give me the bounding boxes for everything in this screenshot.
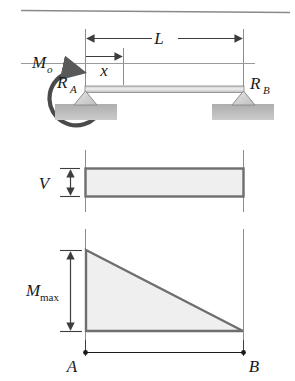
point-b-label: B xyxy=(249,357,260,376)
applied-moment-symbol: M xyxy=(31,53,47,72)
moment-max-subscript: max xyxy=(40,291,59,303)
ground-block-left xyxy=(55,104,117,120)
ground-block-right xyxy=(212,104,274,120)
shear-magnitude-dimension: V xyxy=(39,169,80,197)
point-a-label: A xyxy=(66,357,78,376)
reaction-b-label: R B xyxy=(249,74,270,96)
beam-member xyxy=(85,86,244,93)
support-triangle-a xyxy=(74,91,97,105)
distance-x-dimension: x xyxy=(86,57,122,81)
shear-diagram xyxy=(86,169,244,197)
span-length-label: L xyxy=(153,29,163,48)
reaction-b-symbol: R xyxy=(249,74,261,93)
support-triangle-b xyxy=(232,91,255,105)
reaction-a-symbol: R xyxy=(56,73,68,92)
span-endpoints-dimension: A B xyxy=(66,340,260,376)
shear-constant-block xyxy=(86,169,244,197)
moment-triangle xyxy=(86,250,243,331)
beam-shear-moment-figure: L x M o R xyxy=(0,0,295,381)
applied-moment-label: M o xyxy=(31,53,53,75)
span-length-dimension: L xyxy=(87,29,242,48)
shear-label: V xyxy=(39,174,52,193)
moment-max-symbol: M xyxy=(25,281,41,300)
beam-assembly xyxy=(55,86,274,120)
reaction-b-subscript: B xyxy=(263,84,270,96)
applied-moment-subscript: o xyxy=(47,63,53,75)
moment-diagram xyxy=(86,250,243,331)
moment-max-dimension: M max xyxy=(25,251,82,332)
reaction-a-subscript: A xyxy=(69,83,77,95)
figure-canvas: L x M o R xyxy=(0,0,295,381)
top-horizontal-rule xyxy=(21,11,290,13)
